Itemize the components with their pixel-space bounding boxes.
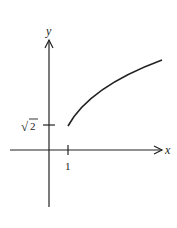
y-tick-radicand: 2 [30,120,36,132]
y-axis-label: y [45,24,52,38]
function-curve [68,60,162,126]
x-tick-label: 1 [65,160,71,172]
x-axis-label: x [164,143,171,157]
graph: y x 1 √ 2 [0,0,177,228]
y-tick-radical: √ [21,119,29,134]
